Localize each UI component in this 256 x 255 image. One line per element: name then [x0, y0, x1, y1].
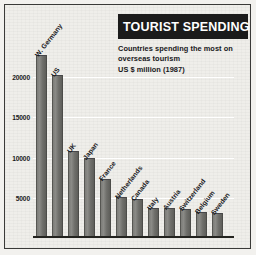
bar-belgium — [196, 212, 208, 237]
bar-w-germany — [36, 55, 48, 237]
bar-netherlands — [116, 197, 128, 237]
category-label: W. Germany — [33, 22, 63, 58]
bar-france — [100, 179, 112, 237]
y-tick-label: 15000 — [12, 114, 30, 121]
chart-title-bar: TOURIST SPENDING — [118, 14, 248, 39]
bar-canada — [132, 199, 144, 237]
bar-sweden — [212, 213, 224, 237]
bar-us — [52, 75, 64, 237]
bar-italy — [148, 208, 160, 237]
chart-title: TOURIST SPENDING — [123, 20, 250, 34]
bar-switzerland — [180, 209, 192, 237]
y-axis: 5000100001500020000 — [5, 45, 33, 238]
bar-uk — [68, 151, 80, 237]
bar-austria — [164, 208, 176, 237]
x-axis-baseline — [33, 236, 234, 238]
chart-frame: TOURIST SPENDING Countries spending the … — [4, 4, 251, 249]
y-tick-label: 10000 — [12, 154, 30, 161]
y-tick-label: 20000 — [12, 74, 30, 81]
chart-figure: TOURIST SPENDING Countries spending the … — [0, 0, 256, 255]
plot-area: W. GermanyUSUKJapanFranceNetherlandsCana… — [33, 45, 234, 238]
y-tick-label: 5000 — [16, 194, 30, 201]
bar-japan — [84, 158, 96, 237]
bar-series: W. GermanyUSUKJapanFranceNetherlandsCana… — [33, 45, 234, 238]
